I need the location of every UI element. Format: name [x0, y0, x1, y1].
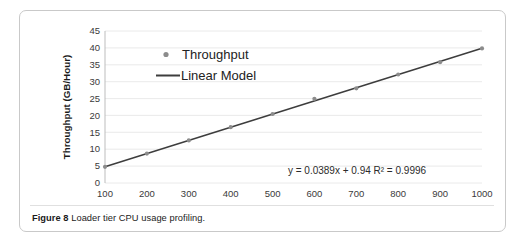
x-tick-1000: 1000 — [471, 188, 492, 199]
legend-label-linear-model: Linear Model — [181, 68, 256, 83]
figure-caption-text: Loader tier CPU usage profiling. — [71, 213, 205, 223]
data-point — [103, 165, 107, 169]
y-tick-40: 40 — [89, 42, 100, 53]
y-tick-20: 20 — [89, 110, 100, 121]
x-tick-500: 500 — [265, 188, 281, 199]
x-tick-300: 300 — [181, 188, 197, 199]
x-tick-100: 100 — [97, 188, 113, 199]
x-axis-tick-labels: 100 200 300 400 500 600 700 800 900 1000 — [97, 188, 493, 199]
y-tick-5: 5 — [95, 160, 100, 171]
legend-marker-throughput — [163, 52, 168, 57]
y-tick-30: 30 — [89, 76, 100, 87]
data-point — [187, 138, 191, 142]
legend-label-throughput: Throughput — [182, 47, 249, 62]
x-tick-600: 600 — [306, 188, 322, 199]
figure-caption-label: Figure 8 — [32, 213, 69, 223]
y-tick-35: 35 — [89, 59, 100, 70]
chart-plot-area: 0 5 10 15 20 25 30 35 40 45 Throughput (… — [20, 11, 505, 203]
chart-svg: 0 5 10 15 20 25 30 35 40 45 Throughput (… — [20, 11, 505, 203]
data-point — [271, 112, 275, 116]
x-tick-700: 700 — [348, 188, 364, 199]
y-axis-title: Throughput (GB/Hour) — [61, 55, 72, 159]
x-tick-800: 800 — [390, 188, 406, 199]
y-tick-10: 10 — [89, 143, 100, 154]
x-axis-title: CPU Cost (%) — [261, 201, 324, 203]
data-point — [312, 97, 316, 101]
data-point — [438, 60, 442, 64]
y-tick-45: 45 — [89, 25, 100, 36]
y-tick-0: 0 — [95, 177, 100, 188]
y-axis-tick-labels: 0 5 10 15 20 25 30 35 40 45 — [89, 25, 100, 188]
data-point — [229, 125, 233, 129]
data-point — [145, 152, 149, 156]
x-tick-900: 900 — [432, 188, 448, 199]
data-point — [480, 46, 484, 50]
x-tick-400: 400 — [223, 188, 239, 199]
y-tick-25: 25 — [89, 93, 100, 104]
figure-caption: Figure 8 Loader tier CPU usage profiling… — [32, 213, 492, 223]
regression-equation: y = 0.0389x + 0.94 R² = 0.9996 — [288, 165, 427, 176]
x-tick-200: 200 — [139, 188, 155, 199]
caption-divider — [30, 205, 494, 206]
y-tick-15: 15 — [89, 127, 100, 138]
data-point — [354, 86, 358, 90]
data-point — [396, 72, 400, 76]
figure-card: 0 5 10 15 20 25 30 35 40 45 Throughput (… — [19, 10, 506, 232]
